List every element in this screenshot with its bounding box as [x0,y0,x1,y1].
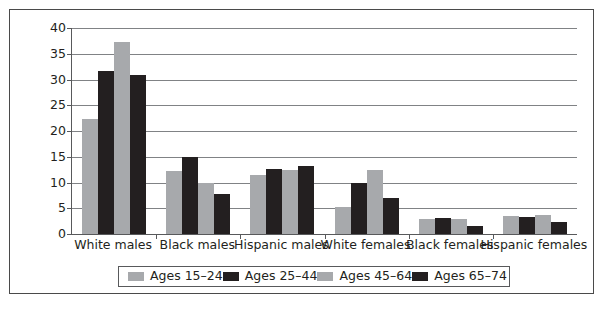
y-axis-tick-label: 20 [30,125,66,138]
y-axis-tick-label: 15 [30,151,66,164]
x-axis-tick-label: Black males [160,238,235,252]
legend-item: Ages 25–44 [223,270,318,283]
bar [114,42,130,234]
bar [551,222,567,234]
plot-area [71,28,577,235]
legend-swatch-icon [317,272,333,281]
x-axis-tick-label: White females [321,238,411,252]
bar [335,207,351,234]
bar [503,216,519,234]
legend-label: Ages 65–74 [434,270,507,283]
y-axis-tick-label: 30 [30,73,66,86]
bar [451,219,467,234]
bar [467,226,483,234]
bar-series-layer [72,28,577,234]
y-axis-tick-label: 10 [30,176,66,189]
bar [166,171,182,234]
bar [298,166,314,234]
bar [98,71,114,234]
chart-canvas: 0510152025303540 White malesBlack malesH… [10,10,595,295]
y-axis-tick-mark [67,234,72,235]
y-axis-tick-label: 25 [30,99,66,112]
bar [519,217,535,234]
x-axis-tick-label: Hispanic females [480,238,587,252]
y-axis-tick-label: 5 [30,202,66,215]
bar [282,170,298,234]
legend-item: Ages 45–64 [317,270,412,283]
bar [535,215,551,234]
chart-legend: Ages 15–24Ages 25–44Ages 45–64Ages 65–74 [118,266,510,287]
x-axis-tick-labels: White malesBlack malesHispanic malesWhit… [71,238,576,256]
bar [351,183,367,235]
legend-swatch-icon [412,272,428,281]
bar [214,194,230,234]
bar [367,170,383,234]
bar [250,175,266,234]
bar [198,183,214,235]
y-axis-tick-labels: 0510152025303540 [30,22,66,234]
legend-label: Ages 45–64 [339,270,412,283]
legend-item: Ages 15–24 [128,270,223,283]
legend-item: Ages 65–74 [412,270,507,283]
figure-frame: 0510152025303540 White malesBlack malesH… [9,9,594,294]
y-axis-tick-label: 0 [30,228,66,241]
bar [130,75,146,234]
bar [182,157,198,234]
bar [82,119,98,234]
legend-label: Ages 15–24 [150,270,223,283]
bar [383,198,399,234]
x-axis-tick-label: Hispanic males [234,238,329,252]
x-axis-tick-label: White males [74,238,152,252]
bar [419,219,435,234]
y-axis-tick-label: 35 [30,48,66,61]
bar [266,169,282,234]
y-axis-tick-label: 40 [30,22,66,35]
bar [435,218,451,234]
legend-swatch-icon [128,272,144,281]
legend-label: Ages 25–44 [245,270,318,283]
legend-swatch-icon [223,272,239,281]
